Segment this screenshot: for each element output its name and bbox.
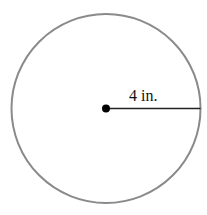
circle-diagram: 4 in. [0,0,207,215]
radius-label: 4 in. [129,87,157,104]
center-point [102,105,110,113]
